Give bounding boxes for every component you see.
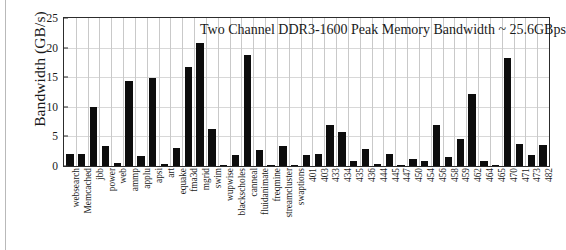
y-axis-tick-mark: [64, 77, 68, 78]
x-axis-tick-label: 465: [498, 168, 507, 182]
x-axis-tick-label: fluidanimate: [261, 168, 270, 215]
x-axis-tick-label: applu: [143, 168, 152, 189]
bar: [149, 78, 156, 166]
x-axis-tick-label: 464: [486, 168, 495, 182]
x-axis-tick-label: blackscholes: [238, 168, 247, 216]
bar: [114, 163, 121, 166]
bar: [185, 67, 192, 166]
bar: [504, 58, 511, 166]
bar: [66, 154, 73, 166]
chart-title: Two Channel DDR3-1600 Peak Memory Bandwi…: [200, 22, 566, 38]
y-axis-tick-label: 5: [52, 130, 64, 142]
x-axis-tick-label: websearch: [72, 168, 81, 207]
bar: [350, 161, 357, 166]
x-axis-tick-labels: websearchMemcachedjbbpowerwebammpappluap…: [63, 168, 550, 248]
bar: [196, 43, 203, 166]
bar-series: [64, 18, 549, 166]
x-axis-tick-label: 450: [415, 168, 424, 182]
x-axis-tick-label: apsi: [155, 168, 164, 183]
bar: [433, 125, 440, 166]
x-axis-tick-label: 462: [474, 168, 483, 182]
x-axis-tick-label: 436: [368, 168, 377, 182]
bar: [468, 94, 475, 166]
bar: [279, 146, 286, 166]
y-axis-tick-label: 10: [47, 101, 65, 113]
y-axis-tick-label: 25: [47, 12, 65, 24]
x-axis-tick-label: 435: [356, 168, 365, 182]
x-axis-tick-label: 445: [392, 168, 401, 182]
bar: [516, 144, 523, 166]
x-axis-tick-label: 458: [451, 168, 460, 182]
x-axis-tick-label: 403: [321, 168, 330, 182]
y-axis-tick-mark: [64, 47, 68, 48]
x-axis-tick-label: 456: [439, 168, 448, 182]
y-axis-tick-mark: [64, 136, 68, 137]
x-axis-tick-label: power: [108, 168, 117, 191]
x-axis-tick-label: fma3d: [190, 168, 199, 192]
plot-area: 0510152025: [63, 17, 550, 167]
bar: [78, 154, 85, 166]
x-axis-tick-label: swim: [214, 168, 223, 188]
x-axis-tick-label: 434: [344, 168, 353, 182]
x-axis-tick-label: web: [119, 168, 128, 184]
bar: [232, 155, 239, 166]
bar: [173, 148, 180, 166]
bar: [338, 132, 345, 166]
bar: [256, 150, 263, 166]
bar: [480, 161, 487, 166]
bar: [326, 125, 333, 166]
x-axis-tick-label: jbb: [96, 168, 105, 180]
y-axis-tick-mark: [64, 106, 68, 107]
bar: [102, 146, 109, 166]
y-axis-tick-mark: [64, 18, 68, 19]
bar: [409, 159, 416, 166]
y-axis-tick-label: 20: [47, 42, 65, 54]
x-axis-tick-label: 447: [403, 168, 412, 182]
bar: [457, 139, 464, 166]
x-axis-tick-label: 454: [427, 168, 436, 182]
bar: [445, 157, 452, 166]
bar: [421, 161, 428, 166]
x-axis-tick-label: streamcluster: [285, 168, 294, 218]
x-axis-tick-label: Memcached: [84, 168, 93, 213]
x-axis-tick-label: mgrid: [202, 168, 211, 190]
bar: [539, 145, 546, 166]
x-axis-tick-label: 459: [462, 168, 471, 182]
bar: [161, 164, 168, 166]
bar: [386, 154, 393, 166]
x-axis-tick-label: wupwise: [226, 168, 235, 201]
x-axis-tick-label: 471: [522, 168, 531, 182]
x-axis-tick-label: swaptions: [297, 168, 306, 205]
bar: [374, 164, 381, 166]
y-axis-tick-mark: [64, 166, 68, 167]
x-axis-tick-label: 482: [545, 168, 554, 182]
bar: [397, 165, 404, 166]
bar: [291, 165, 298, 166]
x-axis-tick-label: ammp: [131, 168, 140, 191]
bar: [208, 129, 215, 166]
bar: [244, 55, 251, 166]
y-axis-tick-label: 15: [47, 71, 65, 83]
bar: [303, 155, 310, 166]
x-axis-tick-label: 433: [332, 168, 341, 182]
x-axis-tick-label: art: [167, 168, 176, 178]
bar: [137, 156, 144, 166]
x-axis-tick-label: freqmine: [273, 168, 282, 202]
x-axis-tick-label: canneal: [250, 168, 259, 196]
page-margin-rule: [5, 0, 6, 250]
x-axis-tick-label: 444: [380, 168, 389, 182]
bar: [267, 165, 274, 166]
bar: [528, 155, 535, 166]
x-axis-tick-label: 470: [510, 168, 519, 182]
bar: [492, 165, 499, 166]
x-axis-tick-label: 401: [309, 168, 318, 182]
x-axis-tick-label: 473: [533, 168, 542, 182]
bar: [90, 107, 97, 166]
x-axis-tick-label: equake: [179, 168, 188, 194]
bar: [125, 81, 132, 166]
bar: [362, 149, 369, 166]
bar: [315, 154, 322, 166]
bar: [220, 165, 227, 166]
